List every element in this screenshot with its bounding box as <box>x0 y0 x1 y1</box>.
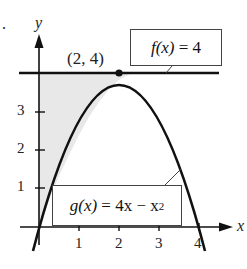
vertex-point <box>115 69 122 76</box>
vertex-label: (2, 4) <box>67 49 104 69</box>
g-box-eq: = 4x − x <box>97 196 159 216</box>
y-axis-label: y <box>35 14 42 32</box>
f-box-eq: = 4 <box>175 38 202 58</box>
stray-dot: . <box>2 15 6 33</box>
y-tick-label-3: 3 <box>17 102 25 119</box>
y-tick-label-2: 2 <box>17 140 25 157</box>
x-axis-label: x <box>237 217 244 235</box>
g-callout-leader <box>165 169 181 185</box>
x-tick-label-4: 4 <box>194 235 202 252</box>
x-tick-label-2: 2 <box>115 235 123 252</box>
g-box-func: g(x) <box>70 196 97 216</box>
x-tick-label-3: 3 <box>155 235 163 252</box>
g-equation-box: g(x) = 4x − x2 <box>52 185 182 226</box>
y-axis-arrow <box>35 34 44 48</box>
f-equation-box: f(x) = 4 <box>130 29 222 66</box>
x-axis-arrow <box>219 223 233 232</box>
g-box-exponent: 2 <box>159 200 165 212</box>
f-box-func: f(x) <box>151 38 175 58</box>
x-tick-label-1: 1 <box>75 235 83 252</box>
y-tick-label-1: 1 <box>17 178 25 195</box>
